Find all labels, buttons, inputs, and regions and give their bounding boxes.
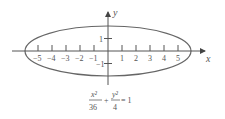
svg-text:1: 1	[99, 35, 103, 44]
svg-text:−3: −3	[61, 54, 70, 63]
svg-text:4: 4	[113, 103, 117, 112]
equation: x² 36 + y² 4 = 1	[89, 90, 132, 112]
svg-text:1: 1	[120, 54, 124, 63]
x-axis-label: x	[205, 53, 211, 64]
svg-text:4: 4	[162, 54, 166, 63]
svg-text:36: 36	[89, 103, 97, 112]
svg-text:= 1: = 1	[121, 96, 132, 105]
svg-text:−5: −5	[33, 54, 42, 63]
ellipse-graph: −5−4−3−2−112345 1−1 x y x² 36 + y² 4 = 1	[0, 0, 225, 119]
svg-text:−4: −4	[47, 54, 56, 63]
svg-text:3: 3	[148, 54, 152, 63]
y-axis-label: y	[112, 7, 118, 18]
svg-text:−2: −2	[75, 54, 84, 63]
svg-text:2: 2	[134, 54, 138, 63]
x-ticks: −5−4−3−2−112345	[33, 45, 180, 63]
svg-text:y²: y²	[111, 90, 119, 99]
svg-text:+: +	[104, 96, 109, 105]
svg-text:−1: −1	[96, 60, 105, 69]
svg-text:5: 5	[176, 54, 180, 63]
svg-text:x²: x²	[90, 90, 98, 99]
